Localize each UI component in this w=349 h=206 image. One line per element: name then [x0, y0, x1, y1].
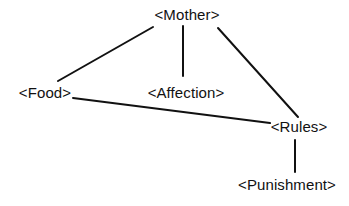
node-food: <Food> — [19, 85, 71, 101]
concept-diagram: <Mother> <Food> <Affection> <Rules> <Pun… — [0, 0, 349, 206]
node-rules: <Rules> — [271, 119, 328, 135]
node-affection: <Affection> — [148, 85, 225, 101]
edge-food-rules — [73, 98, 270, 123]
edge-mother-rules — [218, 28, 298, 117]
node-mother: <Mother> — [154, 7, 219, 23]
edge-mother-food — [58, 27, 153, 81]
node-punishment: <Punishment> — [238, 177, 336, 193]
